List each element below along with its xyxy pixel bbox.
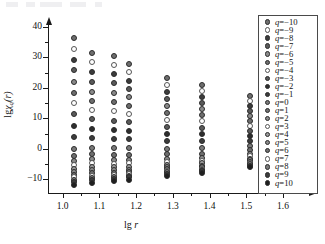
data-point [111,178,117,184]
y-tick-minor [45,103,48,104]
legend-marker-icon [265,84,270,89]
data-point [89,126,95,132]
data-point [164,103,170,109]
legend-item[interactable]: q=8 [259,163,319,171]
legend-marker-icon [265,51,270,56]
data-point [111,71,117,77]
data-point [247,164,253,170]
data-point [111,80,117,86]
data-point [71,100,77,106]
data-point [71,123,77,129]
y-tick [43,88,48,89]
data-point [199,125,205,131]
data-point [89,145,95,151]
y-tick-label: 10 [33,113,43,123]
legend-item[interactable]: q=0 [259,99,319,107]
data-point [126,136,132,142]
x-tick-minor [228,193,229,196]
y-tick-minor [45,164,48,165]
legend-marker-icon [265,19,270,24]
x-tick [136,193,137,198]
data-point [199,112,205,118]
data-point [71,46,77,52]
y-tick-label: −10 [27,174,42,184]
data-point [126,94,132,100]
y-axis-title-sub: q [7,102,15,106]
data-point [164,124,170,130]
data-point [71,182,77,188]
data-point [111,108,117,114]
y-tick-label: 40 [33,22,43,32]
data-point [89,107,95,113]
y-axis-title-chi: χ [2,105,13,109]
data-point [164,110,170,116]
legend-item[interactable]: q=2 [259,115,319,123]
data-point [199,82,205,88]
data-point [126,145,132,151]
data-point [111,145,117,151]
legend-item[interactable]: q=3 [259,123,319,131]
data-point [89,116,95,122]
data-point [71,79,77,85]
data-point [126,177,132,183]
x-tick [63,193,64,198]
data-point [111,118,117,124]
legend-marker-icon [265,124,270,129]
x-tick-minor [81,193,82,196]
y-axis-line [48,24,49,193]
data-point [89,59,95,65]
data-point [199,170,205,176]
legend-marker-icon [265,35,270,40]
legend-box[interactable]: q=−10q=−9q=−8q=−7q=−6q=−5q=−4q=−3q=−2q=−… [258,15,318,194]
x-tick-label: 1.3 [153,202,193,212]
y-tick [43,149,48,150]
data-point [126,69,132,75]
x-tick [99,193,100,198]
y-tick-label: 0 [37,144,42,154]
x-tick [173,193,174,198]
data-point [199,118,205,124]
y-tick-label: 30 [33,52,43,62]
data-point [126,78,132,84]
x-axis-title: lg r [0,219,262,230]
y-tick-minor [45,134,48,135]
legend-marker-icon [265,140,270,145]
x-axis-title-lg: lg [124,219,132,230]
y-tick [43,57,48,58]
x-tick [246,193,247,198]
data-point [126,119,132,125]
x-tick-minor [154,193,155,196]
x-tick-label: 1.6 [263,202,303,212]
legend-marker-icon [265,92,270,97]
data-point [71,111,77,117]
data-point [71,35,77,41]
data-point [111,127,117,133]
legend-marker-icon [265,164,270,169]
legend-item[interactable]: q=10 [259,179,319,187]
data-point [89,50,95,56]
legend-item[interactable]: q=−1 [259,90,319,98]
figure-canvas: −10010203040 1.01.11.21.31.41.51.6 lg r … [0,0,325,244]
y-axis-title: lgχq(r) [2,75,15,135]
x-tick [210,193,211,198]
legend-item[interactable]: q=4 [259,131,319,139]
data-point [89,135,95,141]
data-point [71,134,77,140]
data-point [89,79,95,85]
legend-marker-icon [265,156,270,161]
data-point [199,94,205,100]
data-point [111,90,117,96]
legend-marker-icon [265,172,270,177]
y-axis-title-lg: lg [2,110,13,118]
legend-item[interactable]: q=7 [259,155,319,163]
legend-marker-icon [265,108,270,113]
legend-item[interactable]: q=5 [259,139,319,147]
data-point [89,69,95,75]
data-point [164,173,170,179]
legend-marker-icon [265,148,270,153]
x-tick-minor [191,193,192,196]
legend-marker-icon [265,76,270,81]
legend-item[interactable]: q=1 [259,107,319,115]
legend-item[interactable]: q=6 [259,147,319,155]
legend-marker-icon [265,68,270,73]
